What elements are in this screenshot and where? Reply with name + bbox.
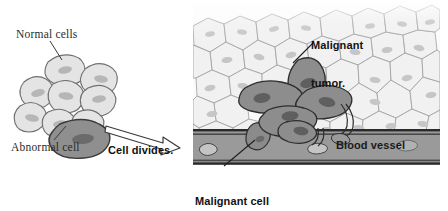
label-blood-vessel: Blood vessel [336, 139, 405, 151]
label-malignant-tumor-line2: tumor. [311, 77, 363, 90]
diagram-canvas: Normal cells Abnormal cell Cell divides.… [0, 0, 448, 211]
label-abnormal-cell: Abnormal cell [11, 141, 80, 153]
label-malignant-tumor: Malignant tumor. [311, 14, 363, 114]
label-malignant-cell-invades-blood: Malignant cell invades blood. [195, 170, 273, 211]
label-malignant-tumor-line1: Malignant [311, 39, 363, 52]
label-normal-cells: Normal cells [16, 28, 77, 40]
label-invades-line1: Malignant cell [195, 195, 273, 208]
label-cell-divides: Cell divides. [108, 144, 174, 156]
